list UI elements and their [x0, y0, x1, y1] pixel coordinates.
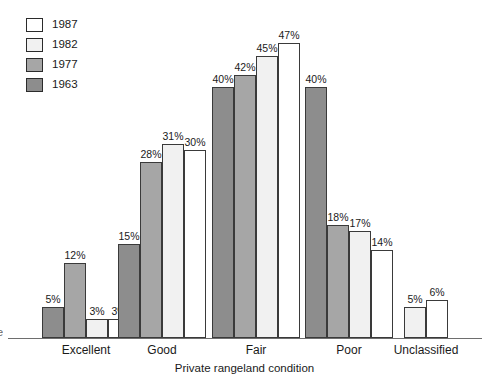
x-axis-line	[8, 338, 482, 339]
bar-slot: 40%	[212, 18, 234, 338]
bar-chart: 1987 1982 1977 1963 5%12%3%3%15%28%31%30…	[0, 0, 489, 385]
category-label: Unclassified	[366, 343, 486, 357]
bar[interactable]	[140, 162, 162, 338]
bar-value-label: 40%	[305, 74, 326, 85]
bar-value-label: 6%	[429, 287, 444, 298]
bar[interactable]	[327, 225, 349, 338]
bar-slot: 12%	[64, 18, 86, 338]
bar-slot: 5%	[42, 18, 64, 338]
bar-slot: 42%	[234, 18, 256, 338]
bar[interactable]	[118, 244, 140, 338]
bar-slot: 3%	[86, 18, 108, 338]
bar-value-label: 12%	[64, 250, 85, 261]
bar-value-label: 31%	[162, 131, 183, 142]
bar-group: 40%42%45%47%	[212, 18, 300, 338]
bar-value-label: 17%	[349, 218, 370, 229]
bar-value-label: 40%	[212, 74, 233, 85]
bar-value-label: 5%	[407, 294, 422, 305]
bar-slot: 15%	[118, 18, 140, 338]
bar-slot: 47%	[278, 18, 300, 338]
bar-value-label: 3%	[89, 306, 104, 317]
bar[interactable]	[64, 263, 86, 338]
bar[interactable]	[305, 87, 327, 338]
bar[interactable]	[42, 307, 64, 338]
bar-value-label: 15%	[118, 231, 139, 242]
bar[interactable]	[278, 43, 300, 338]
bar-slot: 18%	[327, 18, 349, 338]
bar-value-label: 30%	[184, 137, 205, 148]
bar[interactable]	[234, 75, 256, 338]
bar[interactable]	[86, 319, 108, 338]
bar-value-label: 5%	[45, 294, 60, 305]
bar-slot: 30%	[184, 18, 206, 338]
bar-value-label: 18%	[327, 212, 348, 223]
bar[interactable]	[371, 250, 393, 338]
bar-slot: 17%	[349, 18, 371, 338]
clipped-edge-glyph: e	[0, 326, 3, 340]
bar-value-label: 28%	[140, 149, 161, 160]
bar-slot: 45%	[256, 18, 278, 338]
bar[interactable]	[404, 307, 426, 338]
bar-slot: 40%	[305, 18, 327, 338]
bar[interactable]	[184, 150, 206, 338]
bar[interactable]	[426, 300, 448, 338]
bar[interactable]	[212, 87, 234, 338]
bar-group: 5%6%	[404, 18, 448, 338]
bar-slot: 6%	[426, 18, 448, 338]
bar[interactable]	[256, 56, 278, 338]
bar[interactable]	[162, 144, 184, 338]
bar-group: 40%18%17%14%	[305, 18, 393, 338]
bar-value-label: 47%	[278, 30, 299, 41]
bar-value-label: 42%	[234, 62, 255, 73]
bar[interactable]	[349, 231, 371, 338]
bar-group: 15%28%31%30%	[118, 18, 206, 338]
bar-slot: 31%	[162, 18, 184, 338]
bar-slot: 5%	[404, 18, 426, 338]
x-axis-title: Private rangeland condition	[0, 362, 489, 374]
bar-value-label: 14%	[371, 237, 392, 248]
bar-slot: 14%	[371, 18, 393, 338]
bar-slot: 28%	[140, 18, 162, 338]
bar-value-label: 45%	[256, 43, 277, 54]
bar-group: 5%12%3%3%	[42, 18, 130, 338]
plot-area: 5%12%3%3%15%28%31%30%40%42%45%47%40%18%1…	[0, 0, 489, 339]
